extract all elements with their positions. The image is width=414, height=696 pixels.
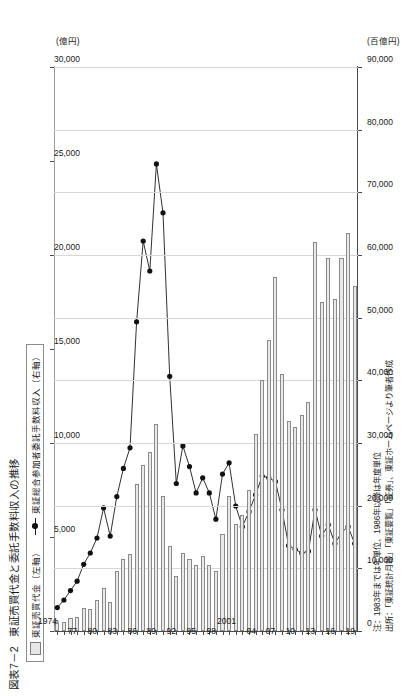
- line-series-marker: [213, 517, 218, 522]
- gridline: [54, 130, 358, 131]
- right-axis-tick-label: 25,000: [54, 148, 80, 158]
- bar: [273, 277, 277, 631]
- left-axis-unit-label: (百億円): [367, 34, 400, 46]
- bar: [306, 402, 310, 631]
- year-axis-tick: [223, 632, 224, 635]
- bar: [280, 374, 284, 631]
- bar: [333, 299, 337, 631]
- year-axis-tick: [203, 632, 204, 635]
- left-axis-tick: [358, 67, 362, 68]
- year-axis-tick: [176, 632, 177, 635]
- right-axis-tick-label: 30,000: [54, 54, 80, 64]
- figure-page: 図表7－2東証売買代金と委託手数料収入の推移 東証売買代金（左軸） 東証総合参加…: [0, 0, 414, 696]
- right-axis-tick-label: 20,000: [54, 242, 80, 252]
- year-axis-tick-label: 89: [147, 626, 156, 636]
- year-axis-tick-label: 77: [68, 626, 77, 636]
- line-series-marker: [121, 466, 126, 471]
- right-axis-tick: [50, 67, 54, 68]
- year-axis-tick-label: 16: [325, 626, 334, 636]
- bar: [300, 415, 304, 631]
- year-axis-tick: [262, 632, 263, 635]
- figure-notes: 注：1983年までは年単位、1986年以降は年度単位 出所：「東証統計月報」「東…: [372, 360, 396, 632]
- right-axis-tick: [50, 631, 54, 632]
- line-series-marker: [194, 490, 199, 495]
- bar: [201, 556, 205, 631]
- bar: [174, 576, 178, 631]
- legend-line-label: 東証総合参加者委託手数料収入（右軸）: [29, 352, 41, 514]
- line-series-marker: [147, 268, 152, 273]
- legend-bar-swatch-icon: [30, 642, 41, 655]
- bar: [240, 515, 244, 631]
- bar: [207, 565, 211, 631]
- year-axis-tick: [163, 632, 164, 635]
- year-axis-tick: [97, 632, 98, 635]
- bar: [148, 452, 152, 631]
- line-series-marker: [141, 238, 146, 243]
- plot-area: 010,00020,00030,00040,00050,00060,00070,…: [54, 66, 358, 632]
- line-series-marker: [160, 210, 165, 215]
- line-series-marker: [88, 550, 93, 555]
- bar: [287, 421, 291, 631]
- bar: [62, 622, 66, 631]
- left-axis-tick-label: 50,000: [367, 305, 393, 315]
- rotated-figure: 図表7－2東証売買代金と委託手数料収入の推移 東証売買代金（左軸） 東証総合参加…: [0, 0, 414, 696]
- left-axis-tick-label: 80,000: [367, 117, 393, 127]
- year-axis-tick: [229, 632, 230, 635]
- line-series-marker: [167, 374, 172, 379]
- left-axis-tick: [358, 255, 362, 256]
- bar: [227, 496, 231, 631]
- line-series-marker: [200, 475, 205, 480]
- chart-legend: 東証売買代金（左軸） 東証総合参加者委託手数料収入（右軸）: [26, 344, 44, 662]
- line-series-marker: [207, 490, 212, 495]
- year-axis-tick: [242, 632, 243, 635]
- bar: [247, 490, 251, 631]
- bar: [267, 340, 271, 631]
- bar: [161, 496, 165, 631]
- year-axis-tick: [236, 632, 237, 635]
- line-series-marker: [108, 534, 113, 539]
- year-axis-tick-label: 10: [286, 626, 295, 636]
- year-axis-tick-label: 95: [187, 626, 196, 636]
- year-axis-tick-label: 92: [167, 626, 176, 636]
- bar: [82, 608, 86, 631]
- year-axis-tick-label: 04: [246, 626, 255, 636]
- left-axis-tick: [358, 443, 362, 444]
- right-axis-tick: [50, 443, 54, 444]
- year-axis-tick: [302, 632, 303, 635]
- bar: [154, 424, 158, 631]
- year-axis-tick: [295, 632, 296, 635]
- bar: [326, 258, 330, 631]
- year-axis-tick-label: 98: [206, 626, 215, 636]
- right-axis-tick: [50, 255, 54, 256]
- line-series-marker: [180, 443, 185, 448]
- left-axis-tick: [358, 192, 362, 193]
- year-axis-tick: [64, 632, 65, 635]
- year-axis-tick-label: 07: [266, 626, 275, 636]
- note-line: 注：1983年までは年単位、1986年以降は年度単位: [372, 360, 384, 632]
- line-series-marker: [75, 579, 80, 584]
- bar: [135, 484, 139, 631]
- line-series-marker: [68, 588, 73, 593]
- bar: [254, 434, 258, 631]
- line-series-marker: [187, 464, 192, 469]
- left-axis-tick-label: 90,000: [367, 54, 393, 64]
- bar: [128, 554, 132, 631]
- bar: [168, 546, 172, 631]
- bar: [260, 380, 264, 631]
- year-axis-tick: [335, 632, 336, 635]
- year-axis-tick: [196, 632, 197, 635]
- legend-line-marker-icon: [31, 518, 40, 535]
- line-series-marker: [134, 319, 139, 324]
- left-axis-tick-label: 60,000: [367, 242, 393, 252]
- bar: [353, 286, 357, 631]
- legend-item-line: 東証総合参加者委託手数料収入（右軸）: [29, 352, 41, 535]
- source-line: 出所：「東証統計月報」「東証要覧」「証券」、東証ホームページより筆者作成: [384, 360, 396, 632]
- year-axis-tick: [275, 632, 276, 635]
- year-axis-tick-label: 80: [87, 626, 96, 636]
- line-series-marker: [114, 494, 119, 499]
- bar: [313, 242, 317, 631]
- year-axis-tick: [315, 632, 316, 635]
- bar: [141, 465, 145, 631]
- year-axis-tick: [84, 632, 85, 635]
- line-series-marker: [127, 445, 132, 450]
